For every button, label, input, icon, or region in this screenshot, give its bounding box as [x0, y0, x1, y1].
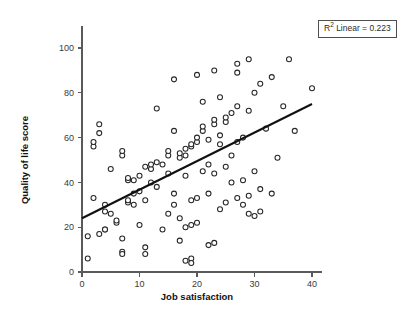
- data-point: [183, 173, 188, 178]
- data-point: [212, 68, 217, 73]
- data-point: [189, 222, 194, 227]
- data-point: [235, 196, 240, 201]
- data-point: [235, 104, 240, 109]
- data-point: [183, 258, 188, 263]
- data-point: [126, 198, 131, 203]
- y-tick-label-60: 60: [64, 133, 74, 143]
- data-point: [108, 166, 113, 171]
- data-points-group: [85, 57, 314, 266]
- data-point: [223, 115, 228, 120]
- x-tick-label-40: 40: [307, 279, 317, 289]
- data-point: [212, 171, 217, 176]
- y-axis-title: Quality of life score: [19, 116, 30, 204]
- data-point: [241, 202, 246, 207]
- data-point: [177, 151, 182, 156]
- data-point: [183, 146, 188, 151]
- y-tick-label-20: 20: [64, 222, 74, 232]
- data-point: [223, 200, 228, 205]
- data-point: [281, 104, 286, 109]
- data-point: [166, 211, 171, 216]
- data-point: [85, 256, 90, 261]
- data-point: [149, 162, 154, 167]
- data-point: [177, 238, 182, 243]
- data-point: [183, 153, 188, 158]
- x-tick-label-0: 0: [79, 279, 84, 289]
- data-point: [287, 57, 292, 62]
- data-point: [195, 196, 200, 201]
- data-point: [218, 95, 223, 100]
- x-tick-label-10: 10: [134, 279, 144, 289]
- data-point: [154, 160, 159, 165]
- data-point: [246, 108, 251, 113]
- plot-canvas: 020406080100010203040 Job satisfaction Q…: [0, 0, 414, 324]
- data-point: [206, 162, 211, 167]
- data-point: [229, 153, 234, 158]
- data-point: [114, 218, 119, 223]
- data-point: [172, 191, 177, 196]
- data-point: [120, 236, 125, 241]
- data-point: [235, 70, 240, 75]
- data-point: [177, 216, 182, 221]
- data-point: [275, 155, 280, 160]
- y-tick-label-0: 0: [69, 267, 74, 277]
- data-point: [91, 140, 96, 145]
- data-point: [160, 162, 165, 167]
- data-point: [154, 184, 159, 189]
- data-point: [229, 110, 234, 115]
- data-point: [172, 202, 177, 207]
- data-point: [103, 227, 108, 232]
- data-point: [206, 243, 211, 248]
- data-point: [195, 72, 200, 77]
- data-point: [258, 81, 263, 86]
- data-point: [252, 90, 257, 95]
- data-point: [218, 207, 223, 212]
- r-squared-label-suffix: Linear = 0.223: [334, 23, 391, 33]
- y-tick-label-80: 80: [64, 88, 74, 98]
- data-point: [143, 245, 148, 250]
- data-point: [292, 128, 297, 133]
- data-point: [223, 164, 228, 169]
- data-point: [235, 61, 240, 66]
- data-point: [189, 261, 194, 266]
- data-point: [206, 191, 211, 196]
- x-tick-label-30: 30: [249, 279, 259, 289]
- data-point: [120, 149, 125, 154]
- data-point: [131, 178, 136, 183]
- data-point: [195, 135, 200, 140]
- data-point: [172, 77, 177, 82]
- data-point: [218, 133, 223, 138]
- data-point: [252, 214, 257, 219]
- data-point: [120, 252, 125, 257]
- x-tick-label-20: 20: [192, 279, 202, 289]
- data-point: [206, 137, 211, 142]
- r-squared-annotation: R2 Linear = 0.223: [318, 20, 397, 38]
- data-point: [200, 169, 205, 174]
- data-point: [126, 175, 131, 180]
- data-point: [97, 122, 102, 127]
- x-axis-title: Job satisfaction: [161, 291, 234, 302]
- data-point: [97, 231, 102, 236]
- data-point: [143, 164, 148, 169]
- scatter-plot-figure: 020406080100010203040 Job satisfaction Q…: [0, 0, 414, 324]
- data-point: [246, 57, 251, 62]
- y-tick-label-100: 100: [59, 43, 74, 53]
- data-point: [212, 240, 217, 245]
- data-point: [269, 75, 274, 80]
- data-point: [218, 142, 223, 147]
- data-point: [200, 99, 205, 104]
- data-point: [183, 225, 188, 230]
- data-point: [246, 211, 251, 216]
- y-tick-label-40: 40: [64, 178, 74, 188]
- data-point: [103, 209, 108, 214]
- data-point: [258, 209, 263, 214]
- data-point: [91, 196, 96, 201]
- data-point: [229, 180, 234, 185]
- data-point: [131, 202, 136, 207]
- data-point: [252, 169, 257, 174]
- data-point: [246, 193, 251, 198]
- data-point: [195, 220, 200, 225]
- data-point: [189, 142, 194, 147]
- data-point: [97, 131, 102, 136]
- data-point: [269, 191, 274, 196]
- data-point: [189, 198, 194, 203]
